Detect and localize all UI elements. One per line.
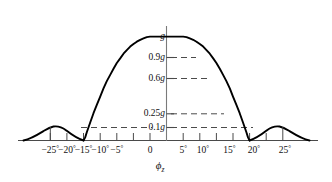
x-tick-label-minus5: −5° xyxy=(110,145,123,155)
x-tick-label-minus20: −20° xyxy=(58,145,76,155)
x-tick-label-5: 5° xyxy=(179,145,187,155)
left-side-lobe-curve xyxy=(24,126,84,140)
radiation-pattern-figure: g 0.9g 0.6g 0.25g 0.1g −25° −20° −15° −1… xyxy=(0,0,332,182)
y-label-g: g xyxy=(160,32,165,42)
right-side-lobe-curve xyxy=(250,126,310,140)
x-tick-label-0: 0 xyxy=(148,145,153,155)
x-tick-label-minus25: −25° xyxy=(41,145,59,155)
x-tick-label-10: 10° xyxy=(197,145,209,155)
y-label-0-1g: 0.1g xyxy=(148,123,165,133)
x-tick-label-minus15: −15° xyxy=(75,145,93,155)
x-tick-label-25: 25° xyxy=(279,145,291,155)
y-label-0-25g: 0.25g xyxy=(144,109,165,119)
x-tick-label-20: 20° xyxy=(248,145,260,155)
y-label-0-6g: 0.6g xyxy=(148,74,165,84)
x-tick-label-15: 15° xyxy=(223,145,235,155)
y-label-0-9g: 0.9g xyxy=(148,53,165,63)
x-axis-title: ϕz xyxy=(156,160,165,174)
y-axis-ticks xyxy=(167,58,175,128)
x-tick-label-minus10: −10° xyxy=(91,145,109,155)
